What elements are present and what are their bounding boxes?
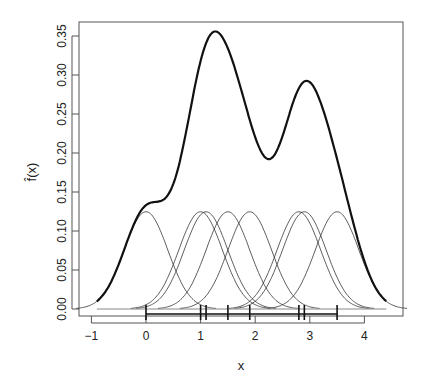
y-tick-label: 0.15 (55, 180, 69, 204)
y-tick-label: 0.00 (55, 297, 69, 321)
kernel-curve (267, 212, 407, 309)
kernel-curve (180, 212, 320, 309)
kernel-curves (76, 212, 407, 309)
x-tick-label: 3 (306, 329, 313, 343)
x-tick-label: 0 (143, 329, 150, 343)
x-axis: −101234 (85, 316, 369, 343)
x-tick-label: 1 (197, 329, 204, 343)
y-axis-label: f̂(x) (24, 163, 39, 183)
x-axis-label: x (238, 358, 245, 373)
y-tick-label: 0.35 (55, 24, 69, 48)
y-axis: 0.000.050.100.150.200.250.300.35 (55, 24, 79, 321)
x-tick-label: 2 (252, 329, 259, 343)
y-tick-label: 0.25 (55, 102, 69, 126)
y-tick-label: 0.10 (55, 219, 69, 243)
x-tick-label: 4 (361, 329, 368, 343)
kde-chart: 0.000.050.100.150.200.250.300.35 −101234… (0, 0, 424, 382)
kde-curve (97, 32, 386, 302)
kernel-curve (131, 212, 271, 309)
kernel-curve (229, 212, 369, 309)
x-tick-label: −1 (85, 329, 99, 343)
y-tick-label: 0.05 (55, 258, 69, 282)
y-tick-label: 0.20 (55, 141, 69, 165)
y-tick-label: 0.30 (55, 63, 69, 87)
kernel-curve (136, 212, 276, 309)
kernel-curve (158, 212, 298, 309)
plot-frame (79, 22, 403, 316)
kernel-curve (76, 212, 216, 309)
